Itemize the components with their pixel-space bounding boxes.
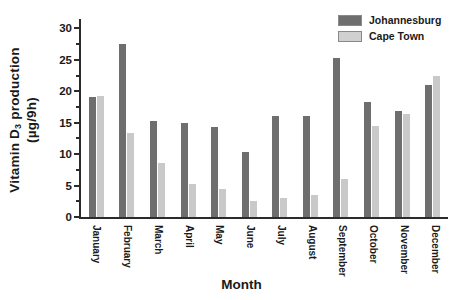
y-axis-title-subscript: 3 [13, 124, 23, 129]
bar-cape-town [127, 133, 134, 217]
y-tick-label: 5 [66, 179, 72, 191]
bar-cape-town [433, 76, 440, 217]
chart-legend: Johannesburg Cape Town [338, 14, 441, 42]
bar-group [326, 19, 357, 217]
bar-group [142, 19, 173, 217]
x-tick-label: May [204, 223, 235, 281]
y-tick [74, 122, 79, 124]
y-tick-label: 25 [59, 54, 72, 66]
x-tick-label-text: October [368, 225, 379, 263]
bar-cape-town [219, 189, 226, 217]
y-axis-title-line1: Vitamin D3 production [7, 47, 22, 192]
y-tick [74, 27, 79, 29]
legend-label-johannesburg: Johannesburg [369, 14, 441, 26]
bar-cape-town [250, 201, 257, 217]
bar-johannesburg [272, 116, 279, 217]
x-tick-label-text: March [152, 225, 163, 254]
bar-johannesburg [211, 127, 218, 218]
x-tick-label-text: June [245, 225, 256, 248]
bar-group [417, 19, 448, 217]
bar-johannesburg [395, 111, 402, 217]
x-tick-label-text: January [91, 225, 102, 263]
y-tick [74, 216, 79, 218]
x-axis-labels: JanuaryFebruaryMarchAprilMayJuneJulyAugu… [81, 223, 450, 281]
bar-chart: Vitamin D3 production (µg/9h) 0510152025… [0, 0, 457, 300]
y-minor-tick [76, 169, 79, 171]
bar-group [81, 19, 112, 217]
x-tick-label-text: September [337, 225, 348, 277]
legend-item: Cape Town [338, 30, 441, 42]
x-tick-label-text: November [398, 225, 409, 274]
x-tick-label-text: August [306, 225, 317, 259]
bar-johannesburg [333, 58, 340, 217]
legend-label-cape-town: Cape Town [369, 30, 424, 42]
y-minor-tick [76, 75, 79, 77]
y-tick [74, 153, 79, 155]
y-minor-tick [76, 200, 79, 202]
bar-johannesburg [425, 85, 432, 217]
x-tick-label: September [327, 223, 358, 281]
bar-johannesburg [119, 44, 126, 217]
bar-group [356, 19, 387, 217]
x-tick-label: March [143, 223, 174, 281]
bar-cape-town [158, 163, 165, 217]
bar-johannesburg [364, 102, 371, 217]
y-tick-label: 15 [59, 116, 72, 128]
bar-cape-town [341, 179, 348, 217]
x-tick-label-text: April [183, 225, 194, 248]
bar-group [234, 19, 265, 217]
bar-johannesburg [150, 121, 157, 217]
x-tick-label: April [173, 223, 204, 281]
y-axis-title: Vitamin D3 production (µg/9h) [0, 0, 46, 240]
x-tick-label: October [358, 223, 389, 281]
bar-groups [81, 19, 448, 217]
x-tick-label: December [419, 223, 450, 281]
y-tick-label: 20 [59, 85, 72, 97]
bar-johannesburg [303, 116, 310, 217]
x-tick-label-text: May [214, 225, 225, 244]
x-tick-label: June [235, 223, 266, 281]
y-tick-label: 10 [59, 148, 72, 160]
bar-cape-town [311, 195, 318, 217]
bar-johannesburg [181, 123, 188, 217]
x-tick-label: July [266, 223, 297, 281]
x-tick-label-text: July [275, 225, 286, 245]
bar-group [295, 19, 326, 217]
bar-cape-town [97, 96, 104, 217]
legend-item: Johannesburg [338, 14, 441, 26]
plot-area: 051015202530 [79, 19, 448, 219]
x-tick-label: February [112, 223, 143, 281]
x-tick-label: August [296, 223, 327, 281]
y-minor-tick [76, 137, 79, 139]
bar-cape-town [372, 126, 379, 217]
bar-group [203, 19, 234, 217]
y-tick [74, 185, 79, 187]
bar-cape-town [403, 114, 410, 217]
x-tick-label: January [81, 223, 112, 281]
bar-cape-town [189, 184, 196, 217]
bar-group [173, 19, 204, 217]
bar-group [264, 19, 295, 217]
x-tick-label: November [389, 223, 420, 281]
y-axis-title-units: (µg/9h) [23, 47, 39, 192]
x-axis-line [79, 217, 448, 219]
y-tick-label: 0 [66, 211, 72, 223]
legend-swatch-johannesburg [338, 15, 362, 26]
y-tick [74, 90, 79, 92]
y-tick-label: 30 [59, 22, 72, 34]
bar-cape-town [280, 198, 287, 217]
x-tick-label-text: December [429, 225, 440, 273]
bar-johannesburg [242, 152, 249, 217]
legend-swatch-cape-town [338, 31, 362, 42]
x-tick-label-text: February [122, 225, 133, 268]
x-axis-title: Month [0, 277, 457, 292]
y-minor-tick [76, 106, 79, 108]
bar-group [112, 19, 143, 217]
y-minor-tick [76, 43, 79, 45]
bar-johannesburg [89, 97, 96, 217]
bar-group [387, 19, 418, 217]
y-tick [74, 59, 79, 61]
